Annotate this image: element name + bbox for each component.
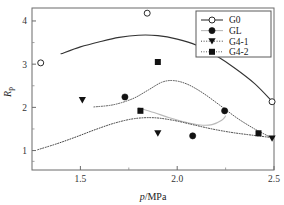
legend-marker-g4-2 [209, 49, 215, 55]
y-axis-title: Rp [2, 87, 15, 98]
x-tick-label: 2.0 [171, 174, 183, 184]
data-point-gl [190, 133, 196, 139]
chart-plot-svg: 1.52.02.51234 p/MPa Rp G0GLG4-1G4-2 [0, 0, 284, 205]
data-point-g4-2 [256, 130, 262, 136]
data-point-g0 [38, 60, 44, 66]
y-tick-label: 4 [22, 16, 27, 26]
legend-label-g4-2[interactable]: G4-2 [229, 47, 249, 57]
legend-marker-gl [209, 28, 215, 34]
data-point-g4-2 [155, 59, 161, 65]
y-tick-label: 1 [22, 146, 27, 156]
y-tick-label: 2 [22, 103, 27, 113]
data-point-gl [222, 108, 228, 114]
data-point-g4-2 [137, 108, 143, 114]
x-tick-label: 2.5 [268, 174, 280, 184]
data-point-g0 [144, 10, 150, 16]
legend-label-gl[interactable]: GL [229, 26, 242, 36]
x-axis-title: p/MPa [139, 191, 167, 202]
legend-label-g4-1[interactable]: G4-1 [229, 37, 249, 47]
data-point-gl [122, 94, 128, 100]
chart-legend: G0GLG4-1G4-2 [196, 11, 271, 57]
data-point-g0 [269, 99, 275, 105]
legend-marker-g0 [209, 17, 215, 23]
legend-label-g0[interactable]: G0 [229, 15, 241, 25]
x-tick-label: 1.5 [74, 174, 86, 184]
chart-figure: 1.52.02.51234 p/MPa Rp G0GLG4-1G4-2 [0, 0, 284, 205]
y-tick-label: 3 [22, 60, 27, 70]
